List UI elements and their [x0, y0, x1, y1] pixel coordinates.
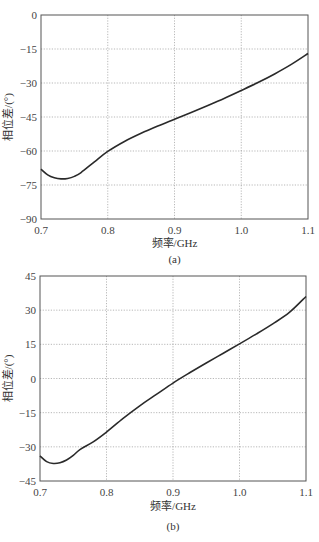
- y-tick-label: −30: [20, 77, 38, 89]
- y-tick-label: 45: [25, 270, 37, 282]
- x-tick-label: 0.8: [101, 224, 115, 236]
- x-tick-label: 1.0: [233, 486, 247, 498]
- y-tick-label: −45: [19, 475, 37, 487]
- x-tick-label: 0.8: [100, 486, 114, 498]
- chart-b: 0.70.80.91.01.14530150−15−30−45频率/GHz相位差…: [1, 270, 313, 533]
- x-tick-label: 0.7: [34, 224, 48, 236]
- y-tick-label: 30: [25, 304, 37, 316]
- y-tick-label: −60: [20, 145, 38, 157]
- y-tick-label: 0: [32, 9, 38, 21]
- y-tick-label: −30: [19, 441, 37, 453]
- x-tick-label: 1.1: [299, 486, 313, 498]
- x-tick-label: 0.7: [33, 486, 47, 498]
- y-tick-label: 15: [25, 338, 37, 350]
- y-tick-label: −75: [20, 179, 38, 191]
- y-tick-label: −90: [20, 213, 38, 225]
- x-axis-label: 频率/GHz: [150, 499, 196, 512]
- y-axis-label: 相位差/(°): [1, 354, 15, 402]
- x-tick-label: 1.0: [234, 224, 248, 236]
- y-tick-label: −45: [20, 111, 38, 123]
- x-tick-label: 1.1: [301, 224, 315, 236]
- y-axis-label: 相位差/(°): [1, 93, 15, 141]
- y-tick-label: −15: [20, 43, 38, 55]
- y-tick-label: 0: [31, 373, 37, 385]
- chart-a: 0.70.80.91.01.10−15−30−45−60−75−90频率/GHz…: [1, 9, 315, 266]
- subfigure-caption: (b): [167, 520, 180, 533]
- x-axis-label: 频率/GHz: [152, 236, 198, 249]
- subfigure-caption: (a): [168, 253, 181, 266]
- x-tick-label: 0.9: [166, 486, 180, 498]
- figure-canvas: 0.70.80.91.01.10−15−30−45−60−75−90频率/GHz…: [0, 0, 319, 542]
- x-tick-label: 0.9: [168, 224, 182, 236]
- y-tick-label: −15: [19, 407, 37, 419]
